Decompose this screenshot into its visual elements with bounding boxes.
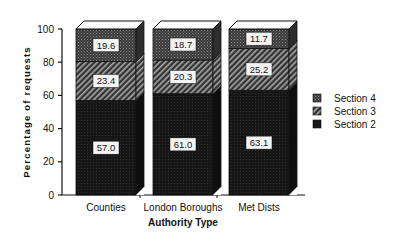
y-tick-label: 60	[43, 90, 55, 101]
x-category-label: London Boroughs	[144, 202, 223, 213]
y-tick-label: 20	[43, 156, 55, 167]
value-label: 61.0	[174, 139, 193, 150]
legend: Section 4Section 3Section 2	[313, 93, 376, 130]
y-tick-label: 80	[43, 57, 55, 68]
value-label: 20.3	[174, 71, 193, 82]
x-axis-title: Authority Type	[148, 217, 218, 228]
value-label: 11.7	[250, 33, 268, 44]
x-category-label: Counties	[86, 202, 125, 213]
legend-swatch	[313, 94, 321, 102]
segment-side	[289, 40, 297, 90]
bar-top-face	[153, 21, 221, 29]
stacked-bar-chart: 020406080100Percentage of requestsAuthor…	[0, 0, 394, 242]
legend-swatch	[313, 107, 321, 115]
value-label: 19.6	[97, 40, 116, 51]
legend-item-section-4: Section 4	[313, 93, 376, 104]
segment-side	[213, 86, 221, 195]
y-axis-title: Percentage of requests	[21, 46, 32, 177]
y-tick-label: 100	[37, 24, 54, 35]
value-label: 23.4	[97, 75, 116, 86]
bar-top-face	[229, 21, 297, 29]
value-label: 57.0	[97, 142, 116, 153]
bar-met-dists	[229, 21, 297, 195]
legend-label: Section 2	[334, 119, 376, 130]
y-tick-label: 0	[48, 190, 54, 201]
segment-side	[136, 92, 144, 195]
legend-label: Section 3	[334, 106, 376, 117]
legend-swatch	[313, 120, 321, 128]
y-tick-label: 40	[43, 123, 55, 134]
bar-top-face	[76, 21, 144, 29]
segment-side	[289, 82, 297, 195]
value-label: 63.1	[250, 137, 269, 148]
value-label: 25.2	[250, 64, 269, 75]
legend-label: Section 4	[334, 93, 376, 104]
legend-item-section-2: Section 2	[313, 119, 376, 130]
x-category-label: Met Dists	[238, 202, 280, 213]
legend-item-section-3: Section 3	[313, 106, 376, 117]
value-label: 18.7	[174, 39, 193, 50]
